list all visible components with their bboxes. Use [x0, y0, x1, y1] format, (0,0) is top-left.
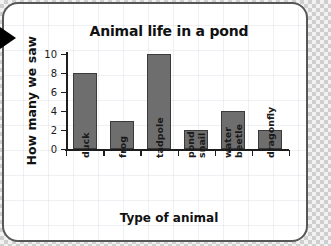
y-tick-label: 0 — [51, 144, 57, 155]
x-tick — [140, 150, 141, 156]
y-axis-title: How many we saw — [24, 46, 39, 166]
y-tick: 8 — [61, 73, 66, 74]
category-label-pond-snail: pondsnail — [186, 131, 207, 158]
category-label-frog: frog — [118, 136, 129, 158]
y-tick: 10 — [61, 54, 66, 55]
screenshot-stage: Animal life in a pond How many we saw Ty… — [0, 0, 331, 246]
y-tick-label: 10 — [44, 49, 57, 60]
x-tick — [289, 150, 290, 156]
chart-title: Animal life in a pond — [44, 23, 294, 39]
y-axis-line — [66, 52, 68, 150]
y-tick-label: 8 — [51, 68, 57, 79]
y-tick: 6 — [61, 92, 66, 93]
category-label-water-beetle: waterbeetle — [223, 124, 244, 158]
y-tick-label: 6 — [51, 87, 57, 98]
category-label-tadpole: tadpole — [155, 117, 166, 158]
category-label-duck: duck — [81, 132, 92, 158]
x-tick — [66, 150, 67, 156]
y-tick-label: 4 — [51, 106, 57, 117]
y-tick-label: 2 — [51, 125, 57, 136]
x-axis-title: Type of animal — [44, 211, 294, 225]
y-tick: 4 — [61, 111, 66, 112]
x-tick — [252, 150, 253, 156]
x-tick — [215, 150, 216, 156]
plot-area: 0246810 duckfrogtadpolepondsnailwaterbee… — [66, 54, 289, 149]
chart-card: Animal life in a pond How many we saw Ty… — [2, 2, 308, 242]
play-triangle-icon — [0, 27, 16, 49]
y-tick: 2 — [61, 130, 66, 131]
x-tick — [178, 150, 179, 156]
x-tick — [103, 150, 104, 156]
category-label-dragonfly: dragonfly — [266, 107, 277, 158]
